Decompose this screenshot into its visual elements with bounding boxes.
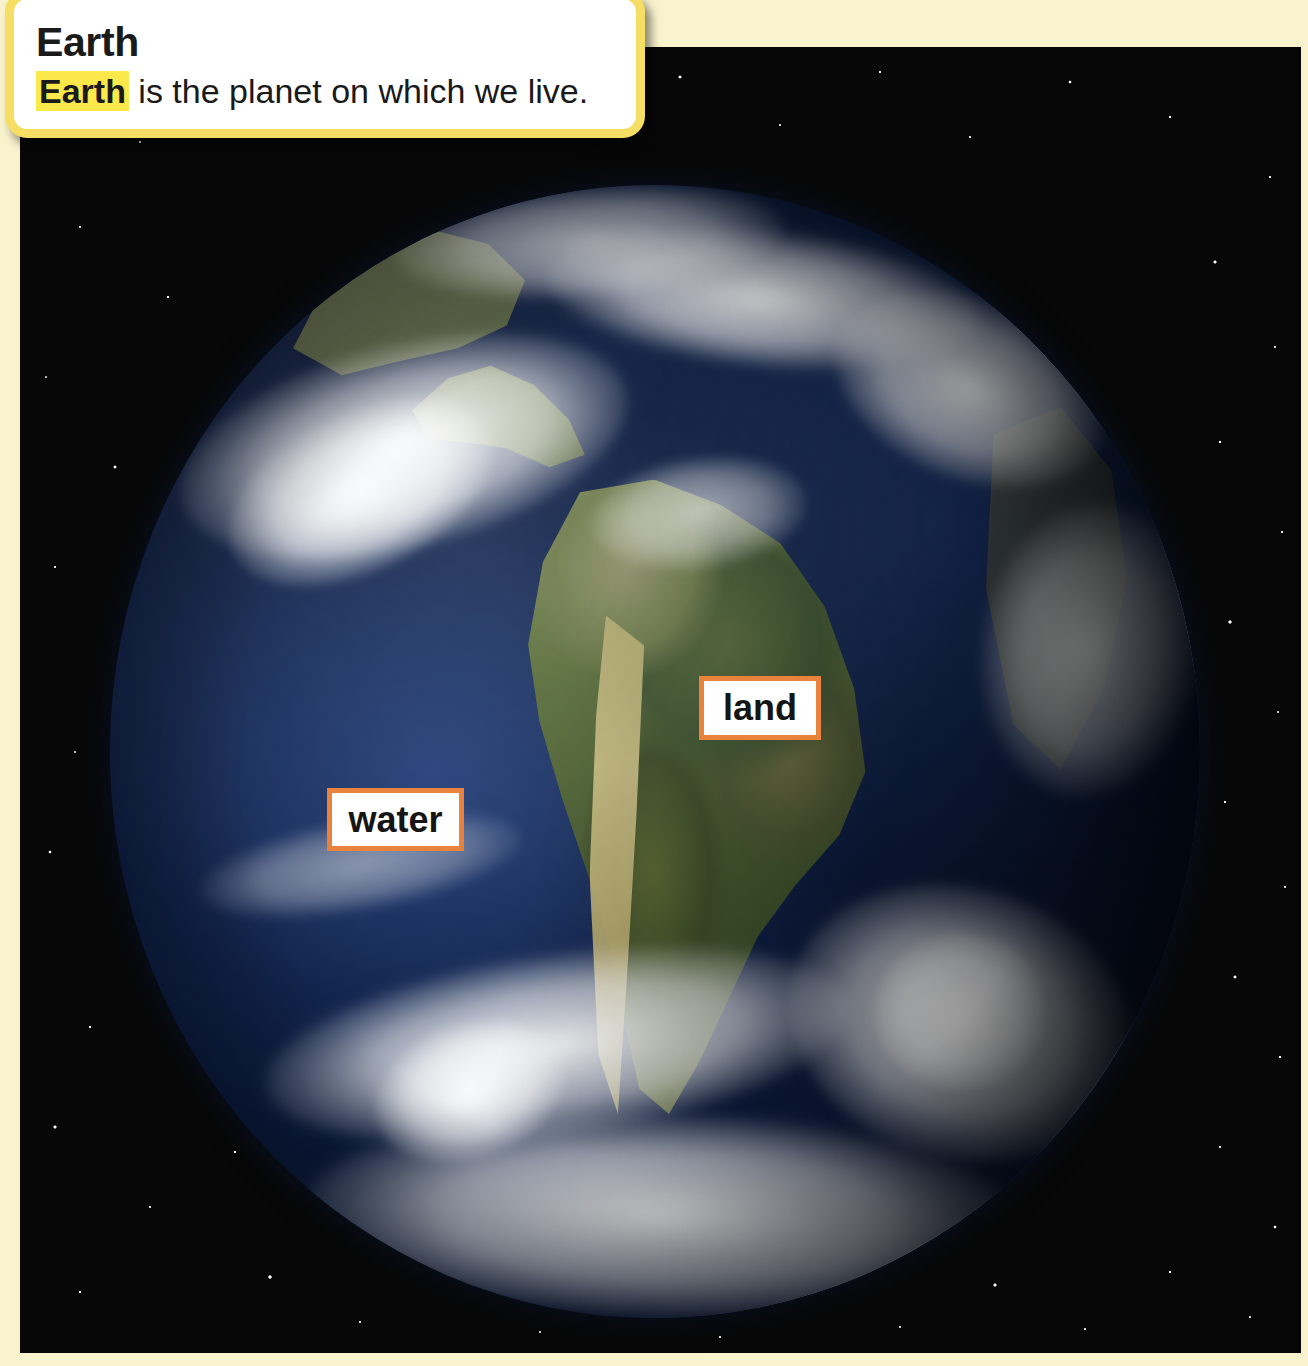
earth-globe [110, 185, 1200, 1318]
earth-photograph: land water [20, 47, 1301, 1353]
page-background: land water Earth Earth is the planet on … [0, 0, 1308, 1366]
callout-label-water: water [327, 788, 464, 851]
title-card: Earth Earth is the planet on which we li… [5, 0, 645, 138]
definition-rest: is the planet on which we live. [129, 72, 588, 110]
callout-label-land: land [699, 676, 821, 740]
globe-terminator-shading [110, 185, 1200, 1318]
highlighted-term: Earth [36, 71, 129, 111]
definition-sentence: Earth is the planet on which we live. [36, 70, 616, 113]
callout-water-text: water [348, 799, 442, 841]
page-title: Earth [36, 21, 616, 64]
callout-land-text: land [723, 687, 797, 729]
